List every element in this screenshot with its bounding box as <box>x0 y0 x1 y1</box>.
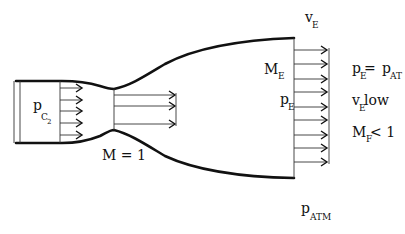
svg-text:p: p <box>33 97 42 113</box>
chamber-flow-arrows <box>60 84 82 139</box>
label-atmospheric-pressure: p ATM <box>301 200 331 222</box>
svg-text:M: M <box>352 124 366 140</box>
condition-pressure-match: p E = p AT <box>352 60 402 81</box>
throat-flow-arrows <box>114 91 175 128</box>
nozzle-diagram: p C 2 M = 1 v E M E p E p ATM p E = p AT… <box>0 0 405 234</box>
svg-text:M: M <box>264 61 278 77</box>
svg-text:< 1: < 1 <box>370 124 395 140</box>
svg-text:AT: AT <box>389 71 402 81</box>
exit-flow-arrows <box>294 46 327 166</box>
svg-text:E: E <box>278 71 285 81</box>
condition-exit-mach: M F < 1 <box>352 124 395 144</box>
label-chamber-pressure: p C 2 <box>33 97 51 126</box>
label-exit-pressure: p E <box>280 91 295 112</box>
nozzle-upper-wall <box>16 38 294 89</box>
condition-exit-velocity: v E low <box>351 92 389 113</box>
svg-text:ATM: ATM <box>309 212 331 222</box>
label-exit-mach: M E <box>264 61 285 81</box>
svg-text:E: E <box>288 102 295 112</box>
svg-text:=: = <box>364 60 376 76</box>
label-throat-mach: M = 1 <box>102 147 146 163</box>
svg-text:2: 2 <box>47 118 51 126</box>
nozzle-lower-wall <box>16 130 294 178</box>
svg-text:p: p <box>301 200 310 216</box>
svg-text:E: E <box>312 20 319 30</box>
label-exit-velocity: v E <box>304 9 319 30</box>
svg-text:low: low <box>364 92 389 108</box>
